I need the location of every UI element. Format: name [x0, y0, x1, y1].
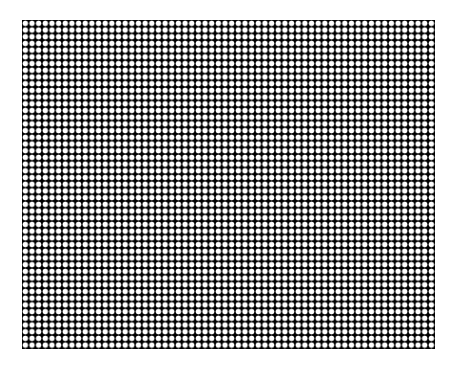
dot-grid-pattern [22, 20, 435, 349]
